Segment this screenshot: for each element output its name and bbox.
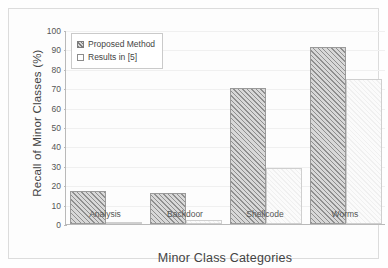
legend-swatch-open-icon [77, 54, 84, 61]
x-tick-label: Worms [305, 209, 385, 219]
x-tick-label: Backdoor [145, 209, 225, 219]
y-tick-label: 90 [35, 46, 61, 55]
y-tick-label: 50 [35, 124, 61, 133]
y-tick-label: 100 [35, 27, 61, 36]
y-tick-label: 10 [35, 202, 61, 211]
bar-proposed-method [230, 88, 266, 224]
chart-figure: Recall of Minor Classes (%) 010203040506… [0, 0, 388, 268]
bar-proposed-method [310, 47, 346, 224]
y-tick-label: 70 [35, 85, 61, 94]
bar-proposed-method [70, 191, 106, 224]
y-tick-label: 80 [35, 66, 61, 75]
legend-label-results-in-5: Results in [5] [88, 53, 137, 62]
x-axis-title: Minor Class Categories [65, 251, 385, 265]
x-tick-label: Analysis [65, 209, 145, 219]
bar-group [230, 31, 302, 224]
bar-group [310, 31, 382, 224]
y-tick-label: 30 [35, 163, 61, 172]
y-tick-label: 20 [35, 182, 61, 191]
bar-results-in-5 [106, 222, 142, 224]
y-tick-label: 60 [35, 105, 61, 114]
legend-label-proposed-method: Proposed Method [88, 40, 155, 49]
x-tick-label: Shellcode [225, 209, 305, 219]
figure-frame: Recall of Minor Classes (%) 010203040506… [8, 8, 379, 259]
bar-results-in-5 [186, 220, 222, 224]
y-axis-tick-labels: 0102030405060708090100 [31, 31, 61, 225]
chart-legend: Proposed Method Results in [5] [71, 33, 163, 69]
legend-swatch-hatched-icon [77, 41, 84, 48]
legend-item-proposed-method: Proposed Method [77, 38, 155, 51]
legend-item-results-in-5: Results in [5] [77, 51, 155, 64]
y-tick-label: 40 [35, 143, 61, 152]
y-tick-mark [64, 225, 67, 226]
bar-results-in-5 [346, 79, 382, 225]
y-tick-label: 0 [35, 221, 61, 230]
